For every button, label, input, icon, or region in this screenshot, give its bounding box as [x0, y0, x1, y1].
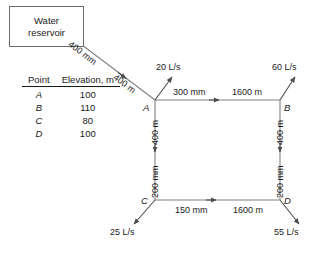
table-row: D 100 — [22, 126, 120, 139]
table-cell-elevation: 110 — [56, 100, 120, 113]
pipe-ab-length-label: 1600 m — [232, 88, 262, 97]
table-header-point: Point — [22, 74, 56, 87]
table-cell-point: A — [22, 87, 56, 101]
table-cell-point: C — [22, 113, 56, 126]
demand-label-b: 60 L/s — [272, 63, 297, 72]
node-label-b: B — [284, 103, 290, 113]
table-cell-elevation: 100 — [56, 87, 120, 101]
pipe-bd-diameter-label: 200 mm — [276, 165, 285, 198]
pipe-cd-diameter-label: 150 mm — [175, 206, 208, 215]
reservoir-label-line2: reservoir — [28, 27, 65, 39]
table-header-row: Point Elevation, m — [22, 74, 120, 87]
table-cell-elevation: 80 — [56, 113, 120, 126]
table-cell-point: D — [22, 126, 56, 139]
table-cell-point: B — [22, 100, 56, 113]
demand-label-d: 55 L/s — [274, 228, 299, 237]
node-label-a: A — [143, 103, 149, 113]
loop-pipes — [155, 100, 280, 200]
table-header-elevation: Elevation, m — [56, 74, 120, 87]
node-label-c: C — [141, 196, 148, 206]
pipe-ab-diameter-label: 300 mm — [173, 88, 206, 97]
demand-label-a: 20 L/s — [156, 63, 181, 72]
table-row: A 100 — [22, 87, 120, 101]
pipe-cd-length-label: 1600 m — [233, 206, 263, 215]
pipe-network-diagram: Water reservoir 400 mm 400 m A B C D 300… — [0, 0, 319, 253]
elevation-table: Point Elevation, m A 100 B 110 C 80 — [22, 74, 120, 139]
table-cell-elevation: 100 — [56, 126, 120, 139]
pipe-ac-length-label: 400 m — [151, 120, 160, 145]
demand-arrows — [134, 77, 299, 224]
table-row: C 80 — [22, 113, 120, 126]
pipe-ac-diameter-label: 200 mm — [151, 165, 160, 198]
reservoir-label-line1: Water — [34, 15, 59, 27]
table-row: B 110 — [22, 100, 120, 113]
demand-label-c: 25 L/s — [110, 228, 135, 237]
node-label-d: D — [284, 196, 291, 206]
pipe-bd-length-label: 400 m — [276, 120, 285, 145]
